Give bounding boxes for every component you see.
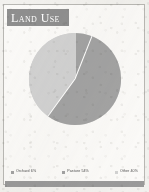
legend-swatch-orchard xyxy=(11,171,14,174)
legend-swatch-pasture xyxy=(62,171,65,174)
card-footer-bar xyxy=(5,181,144,187)
pie-chart xyxy=(28,32,122,126)
legend-swatch-other xyxy=(115,171,118,174)
legend-label-other: Other 40% xyxy=(120,170,138,174)
pie-slice-group xyxy=(29,33,121,125)
pie-chart-svg xyxy=(28,32,122,126)
land-use-chart-card: Land Use Orchard 6% Pasture 54% Other 40… xyxy=(0,0,149,192)
legend-label-orchard: Orchard 6% xyxy=(16,170,36,174)
legend-item-other[interactable]: Other 40% xyxy=(115,170,138,174)
legend-item-orchard[interactable]: Orchard 6% xyxy=(11,170,36,174)
chart-title-banner: Land Use xyxy=(7,9,69,26)
chart-legend: Orchard 6% Pasture 54% Other 40% xyxy=(7,166,142,178)
legend-label-pasture: Pasture 54% xyxy=(67,170,89,174)
legend-item-pasture[interactable]: Pasture 54% xyxy=(62,170,89,174)
pie-chart-plot-area xyxy=(7,28,142,162)
page-title: Land Use xyxy=(11,12,60,24)
